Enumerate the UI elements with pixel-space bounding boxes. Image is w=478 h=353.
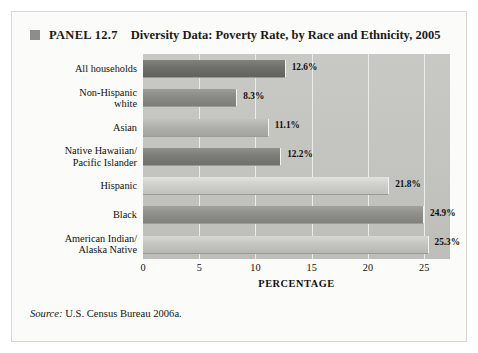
bar	[143, 206, 424, 224]
bar	[143, 89, 237, 107]
category-label-line: American Indian/	[25, 233, 137, 244]
category-label-line: Pacific Islander	[25, 157, 137, 168]
bar-value-label: 25.3%	[435, 237, 461, 247]
bar-row: 24.9%	[143, 200, 450, 229]
source-text: U.S. Census Bureau 2006a.	[63, 308, 182, 319]
category-label-line: Alaska Native	[25, 244, 137, 255]
bar-chart: All householdsNon-HispanicwhiteAsianNati…	[30, 54, 450, 286]
x-tick-label: 10	[250, 262, 260, 273]
category-label-line: Non-Hispanic	[25, 87, 137, 98]
category-label: All households	[25, 63, 137, 74]
bar	[143, 177, 389, 195]
category-label: American Indian/Alaska Native	[25, 233, 137, 256]
square-bullet-icon	[30, 30, 40, 40]
category-label-line: Asian	[25, 122, 137, 133]
panel-figure: PANEL 12.7 Diversity Data: Poverty Rate,…	[11, 11, 467, 342]
bar	[143, 60, 286, 78]
x-tick-label: 5	[197, 262, 202, 273]
bar-row: 8.3%	[143, 83, 450, 112]
bar-value-label: 12.2%	[287, 149, 313, 159]
bar	[143, 236, 429, 254]
bar	[143, 148, 281, 166]
x-axis-title: PERCENTAGE	[143, 278, 450, 289]
bar-value-label: 12.6%	[292, 62, 318, 72]
panel-number: PANEL 12.7	[49, 28, 118, 43]
bar-row: 21.8%	[143, 171, 450, 200]
category-label-line: Hispanic	[25, 180, 137, 191]
bar-row: 25.3%	[143, 230, 450, 259]
source-label: Source:	[30, 308, 63, 319]
category-label-line: Native Hawaiian/	[25, 145, 137, 156]
category-label-line: white	[25, 98, 137, 109]
bar-row: 12.2%	[143, 142, 450, 171]
bar-row: 12.6%	[143, 54, 450, 83]
panel-header: PANEL 12.7 Diversity Data: Poverty Rate,…	[30, 25, 456, 45]
category-label-line: Black	[25, 209, 137, 220]
category-label: Black	[25, 209, 137, 220]
bar-value-label: 21.8%	[395, 179, 421, 189]
category-label: Native Hawaiian/Pacific Islander	[25, 145, 137, 168]
category-label: Non-Hispanicwhite	[25, 87, 137, 110]
bar-value-label: 24.9%	[430, 208, 456, 218]
x-tick-label: 0	[140, 262, 145, 273]
page-title: Diversity Data: Poverty Rate, by Race an…	[131, 28, 441, 43]
category-label: Hispanic	[25, 180, 137, 191]
plot-area: 12.6%8.3%11.1%12.2%21.8%24.9%25.3%	[143, 54, 450, 259]
category-label-line: All households	[25, 63, 137, 74]
category-label: Asian	[25, 122, 137, 133]
bar-row: 11.1%	[143, 113, 450, 142]
x-tick-label: 15	[307, 262, 317, 273]
bar-value-label: 11.1%	[275, 120, 300, 130]
x-tick-label: 20	[363, 262, 373, 273]
bar	[143, 119, 269, 137]
source-note: Source: U.S. Census Bureau 2006a.	[30, 308, 182, 319]
category-axis: All householdsNon-HispanicwhiteAsianNati…	[30, 54, 143, 259]
bar-value-label: 8.3%	[243, 91, 264, 101]
x-tick-label: 25	[419, 262, 429, 273]
